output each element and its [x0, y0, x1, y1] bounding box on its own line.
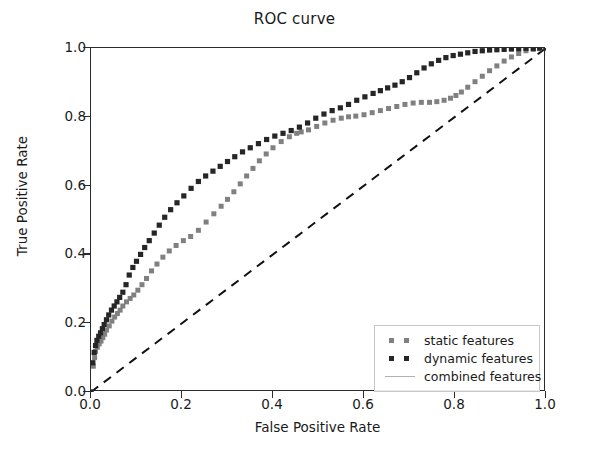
legend-item-combined: combined features [382, 367, 532, 385]
y-axis-label: True Positive Rate [14, 101, 30, 291]
x-axis-tick-labels: 0.00.20.40.60.81.0 [90, 396, 545, 418]
data-point [92, 350, 97, 355]
data-point [144, 276, 149, 281]
x-tickmark [181, 391, 182, 398]
data-point [402, 102, 407, 107]
x-tick-label: 0.2 [158, 396, 204, 412]
data-point [211, 211, 216, 216]
y-tickmark [83, 185, 90, 186]
data-point [385, 85, 390, 90]
data-point [188, 234, 193, 239]
data-point [280, 131, 285, 136]
x-tickmark [545, 391, 546, 398]
data-point [516, 48, 521, 51]
data-point [104, 317, 109, 322]
data-point [114, 299, 119, 304]
data-point [174, 243, 179, 248]
y-tickmark [83, 47, 90, 48]
x-tickmark [272, 391, 273, 398]
data-point [210, 169, 215, 174]
data-point [394, 104, 399, 109]
data-point [168, 207, 173, 212]
data-point [135, 288, 140, 293]
data-point [502, 59, 507, 64]
data-point [443, 55, 448, 60]
data-point [453, 93, 458, 98]
data-point [487, 48, 492, 53]
data-point [330, 108, 335, 113]
data-point [225, 159, 230, 164]
x-tick-label: 0.0 [67, 396, 113, 412]
data-point [139, 282, 144, 287]
data-point [480, 48, 485, 53]
data-point [162, 215, 167, 220]
data-point [232, 154, 237, 159]
data-point [434, 99, 439, 104]
data-point [196, 179, 201, 184]
data-point [442, 98, 447, 103]
data-point [123, 282, 128, 287]
data-point [465, 85, 470, 90]
data-point [240, 149, 245, 154]
legend-label-dynamic: dynamic features [424, 351, 533, 366]
data-point [494, 63, 499, 68]
data-point [157, 223, 162, 228]
x-axis-label: False Positive Rate [90, 419, 545, 435]
data-point [429, 61, 434, 66]
legend-label-static: static features [424, 333, 514, 348]
data-point [250, 166, 255, 171]
data-point [543, 48, 546, 51]
data-point [516, 51, 521, 56]
data-point [204, 220, 209, 225]
legend-swatch-combined-icon [382, 369, 418, 383]
data-point [120, 290, 125, 295]
data-point [117, 295, 122, 300]
data-point [297, 125, 302, 130]
data-point [451, 53, 456, 58]
data-point [411, 101, 416, 106]
data-point [400, 79, 405, 84]
data-point [353, 114, 358, 119]
data-point [502, 48, 507, 52]
data-point [272, 133, 277, 138]
data-point [414, 70, 419, 75]
data-point [313, 116, 318, 121]
data-point [339, 116, 344, 121]
y-tick-label: 0.8 [52, 108, 86, 124]
data-point [93, 343, 98, 348]
data-point [181, 193, 186, 198]
data-point [279, 139, 284, 144]
data-point [322, 120, 327, 125]
data-point [189, 186, 194, 191]
data-point [472, 49, 477, 54]
data-point [244, 173, 249, 178]
data-point [225, 197, 230, 202]
data-point [154, 262, 159, 267]
x-tick-label: 1.0 [522, 396, 568, 412]
y-tick-label: 0.6 [52, 177, 86, 193]
data-point [346, 114, 351, 119]
data-point [306, 127, 311, 132]
data-point [321, 111, 326, 116]
y-axis-tick-labels: 0.00.20.40.60.81.0 [46, 47, 86, 391]
data-point [421, 65, 426, 70]
data-point [407, 75, 412, 80]
y-tickmark [83, 322, 90, 323]
data-point [378, 108, 383, 113]
data-point [102, 322, 107, 327]
data-point [289, 128, 294, 133]
data-point [196, 228, 201, 233]
data-point [537, 48, 542, 51]
data-point [487, 68, 492, 73]
data-point [264, 137, 269, 142]
data-point [203, 173, 208, 178]
data-point [346, 102, 351, 107]
y-tick-label: 1.0 [52, 39, 86, 55]
legend-swatch-static-icon [382, 333, 418, 347]
x-tick-label: 0.8 [431, 396, 477, 412]
legend-item-dynamic: dynamic features [382, 349, 532, 367]
data-point [271, 145, 276, 150]
data-point [181, 238, 186, 243]
x-tick-label: 0.4 [249, 396, 295, 412]
data-point [314, 124, 319, 129]
